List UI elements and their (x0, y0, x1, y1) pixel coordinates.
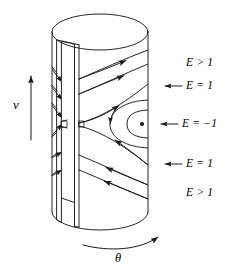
back-streamline-2 (48, 82, 62, 100)
streamline-rotation-lower-2-arrow (104, 181, 148, 199)
saddle-points (61, 120, 84, 128)
energy-label-e-eq-minus-1: E = −1 (182, 118, 217, 130)
theta-axis-curved-arrow (83, 237, 158, 249)
libration-orbit-inner (127, 110, 148, 138)
cylinder-diagram-svg (0, 0, 234, 274)
cylinder-bottom-front-arc (52, 212, 148, 230)
energy-label-e-eq-1-top: E = 1 (186, 80, 213, 92)
slit-inner-floor-line (61, 198, 74, 203)
energy-label-e-gt-1-bottom: E > 1 (186, 187, 213, 199)
cylinder-outline (52, 14, 148, 230)
phase-portrait-figure: v θ E > 1 E = 1 E = −1 E = 1 E > 1 (0, 0, 234, 274)
back-streamline-5 (48, 152, 62, 160)
center-fixed-point-dot (140, 122, 144, 126)
flow-lines-back (48, 64, 62, 178)
back-streamline-3 (48, 100, 62, 118)
cylinder-slit (57, 40, 79, 227)
streamline-rotation-lower-1-arrow (106, 168, 148, 186)
cylinder-top-ellipse (52, 14, 148, 50)
streamline-rotation-upper-2-arrow (79, 76, 124, 95)
v-axis-label: v (13, 98, 19, 111)
back-streamline-6 (48, 170, 62, 178)
back-streamline-1 (48, 64, 62, 82)
energy-label-e-gt-1-top: E > 1 (186, 57, 213, 69)
flow-lines-front (79, 50, 148, 199)
back-streamline-4 (48, 124, 62, 140)
energy-label-e-eq-1-bottom: E = 1 (186, 158, 213, 170)
theta-axis-label: θ (115, 252, 121, 265)
